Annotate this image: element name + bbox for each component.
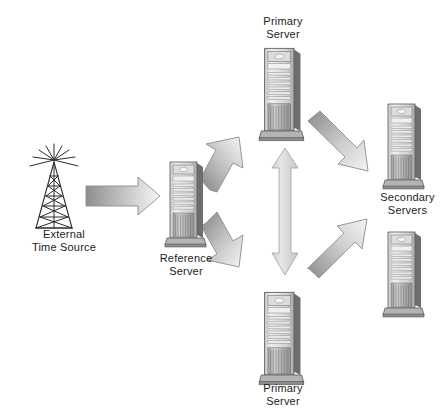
label-secondary-servers: Secondary Servers	[368, 191, 447, 217]
server-tower-icon	[382, 100, 426, 192]
node-reference-server[interactable]	[164, 158, 208, 254]
node-secondary-server-lower[interactable]	[382, 228, 426, 324]
arrow-source-to-reference	[86, 177, 160, 215]
node-primary-server-top[interactable]	[258, 44, 306, 148]
arrow-primary-top-to-secondary-upper	[308, 111, 368, 171]
node-secondary-server-upper[interactable]	[382, 100, 426, 196]
server-tower-icon	[258, 44, 306, 144]
node-primary-server-bottom[interactable]	[258, 288, 306, 392]
arrow-primary-bottom-to-secondary-lower	[307, 219, 367, 278]
server-tower-icon	[258, 288, 306, 388]
antenna-tower-icon	[20, 142, 88, 232]
server-tower-icon	[164, 158, 208, 250]
arrow-primary-top-to-primary-bottom	[272, 148, 298, 275]
server-tower-icon	[382, 228, 426, 320]
label-primary-server-top: Primary Server	[245, 15, 321, 41]
network-diagram-canvas: External Time Source	[0, 0, 447, 416]
label-primary-server-bottom: Primary Server	[245, 382, 321, 408]
label-reference-server: Reference Server	[148, 252, 224, 278]
label-external-time-source: External Time Source	[14, 228, 114, 254]
node-external-time-source[interactable]	[20, 142, 88, 236]
